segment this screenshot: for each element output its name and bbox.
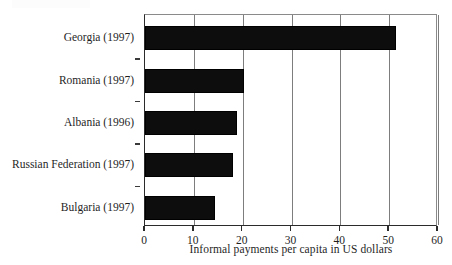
bar — [145, 196, 215, 220]
y-axis-label: Georgia (1997) — [64, 31, 134, 43]
x-axis-tick-60 — [436, 226, 437, 231]
y-axis-label: Russian Federation (1997) — [12, 158, 134, 170]
y-axis-label: Romania (1997) — [59, 74, 134, 86]
x-axis-tick-10 — [192, 226, 193, 231]
x-axis-tick-40 — [339, 226, 340, 231]
x-axis-tick-30 — [290, 226, 291, 231]
y-axis-tick — [135, 143, 140, 144]
y-axis-tick — [135, 101, 140, 102]
bar — [145, 111, 237, 135]
x-axis-tick-20 — [241, 226, 242, 231]
bar — [145, 69, 244, 93]
bar — [145, 26, 396, 50]
x-axis-tick-0 — [143, 226, 144, 231]
plot-area — [144, 14, 437, 226]
figure-root: Georgia (1997)Romania (1997)Albania (199… — [0, 0, 452, 265]
y-axis-labels: Georgia (1997)Romania (1997)Albania (199… — [0, 14, 140, 226]
scan-artifact-text — [12, 0, 90, 8]
y-axis-label: Albania (1996) — [64, 116, 134, 128]
bar — [145, 153, 233, 177]
x-axis-title: Informal payments per capita in US dolla… — [0, 243, 452, 255]
y-axis-tick — [135, 186, 140, 187]
y-axis-label: Bulgaria (1997) — [61, 201, 134, 213]
gridline-60 — [438, 15, 439, 225]
y-axis-tick — [135, 58, 140, 59]
x-axis-tick-50 — [387, 226, 388, 231]
